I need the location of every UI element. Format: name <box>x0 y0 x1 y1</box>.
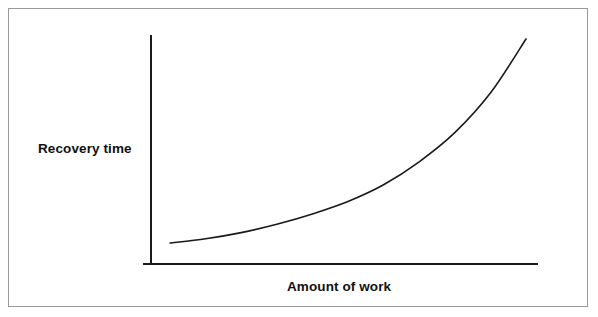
x-axis-label: Amount of work <box>287 279 391 295</box>
plot-area <box>0 0 598 317</box>
y-axis-label: Recovery time <box>38 141 132 157</box>
exponential-curve <box>170 39 526 243</box>
figure-container: Recovery time Amount of work <box>0 0 598 317</box>
